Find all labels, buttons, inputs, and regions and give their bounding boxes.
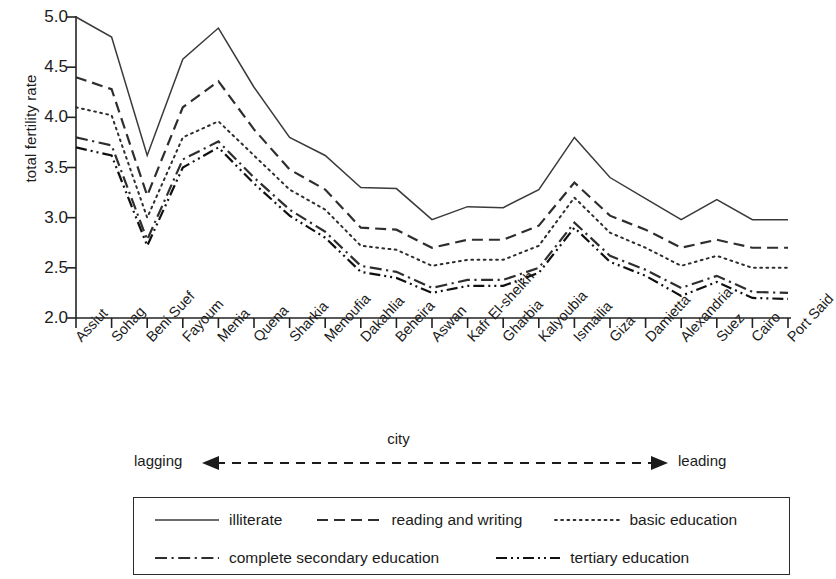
legend-entry: reading and writing xyxy=(316,511,522,529)
legend-label: reading and writing xyxy=(391,511,522,529)
legend-row: illiteratereading and writingbasic educa… xyxy=(134,500,789,539)
legend-label: tertiary education xyxy=(570,549,689,567)
series-line-tertiary-education xyxy=(76,147,788,299)
x-axis-annotation: city lagging leading xyxy=(0,430,797,485)
x-axis-tick-labels: AssiutSohagBeni SuefFayoumMeniaQuenaShar… xyxy=(0,0,797,120)
legend-line-swatch xyxy=(554,513,620,527)
series-line-basic-education xyxy=(76,107,788,268)
legend-entry: tertiary education xyxy=(495,549,689,567)
legend-entry: basic education xyxy=(554,511,737,529)
leading-label: leading xyxy=(678,452,726,469)
lagging-label: lagging xyxy=(134,452,182,469)
legend-label: complete secondary education xyxy=(229,549,439,567)
legend-entry: illiterate xyxy=(154,511,282,529)
series-line-complete-secondary-education xyxy=(76,137,788,293)
legend-entry: complete secondary education xyxy=(154,549,439,567)
legend-row: complete secondary educationtertiary edu… xyxy=(134,538,789,577)
x-axis-title: city xyxy=(0,430,797,447)
legend-line-swatch xyxy=(495,551,561,565)
legend-line-swatch xyxy=(154,551,220,565)
legend-line-swatch xyxy=(316,513,382,527)
legend-label: illiterate xyxy=(229,511,282,529)
x-axis-ticks xyxy=(76,318,788,328)
legend-label: basic education xyxy=(629,511,737,529)
chart-legend: illiteratereading and writingbasic educa… xyxy=(133,497,790,575)
legend-line-swatch xyxy=(154,513,220,527)
